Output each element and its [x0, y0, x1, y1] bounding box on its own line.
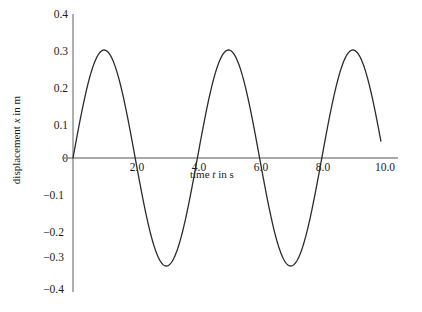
chart-figure: displacement x in m time t in s 0.4 0.3 … [0, 0, 422, 312]
plot-area [0, 0, 422, 312]
